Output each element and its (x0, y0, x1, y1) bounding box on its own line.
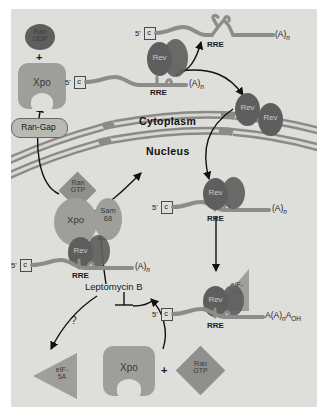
polya-oh-label: A(A)nAOH (265, 310, 301, 322)
eif5a-label-bottom: eIF- 5A (49, 366, 75, 381)
diagram-panel: Cytoplasm Nucleus (11, 9, 317, 407)
ran-gtp-bottom-line2: GTP (193, 367, 207, 374)
ran-gtp-bottom-line1: Ran (194, 360, 207, 367)
ran-gtp-label-bottom: Ran GTP (183, 360, 218, 375)
eif5a-bottom-line2: 5A (58, 373, 67, 380)
plus-sign-bottom: + (161, 364, 167, 376)
rre-label-5: RRE (207, 321, 224, 330)
xpo-label-bottom: Xpo (103, 362, 155, 373)
polya-oh-pre: A(A) (265, 310, 282, 320)
polya-oh-sub2: OH (291, 315, 301, 322)
rna-strand-5 (11, 9, 317, 339)
xpo-notch-bottom (117, 379, 141, 398)
eif5a-bottom-line1: eIF- (56, 366, 68, 373)
figure-canvas: Cytoplasm Nucleus (0, 0, 329, 416)
